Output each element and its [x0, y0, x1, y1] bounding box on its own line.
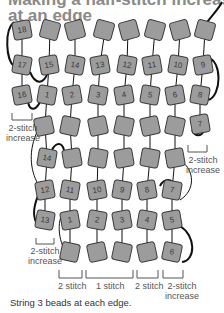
bead-row-g: 13 1 2 3 4 5: [35, 210, 183, 231]
bead: 13: [90, 55, 111, 76]
upper-left-increase-label: 2-stitch increase: [6, 123, 40, 143]
bead: 18: [12, 20, 33, 41]
bead: [144, 19, 166, 41]
bead: [169, 19, 191, 41]
bead: [111, 241, 132, 262]
bead: 2: [62, 85, 83, 106]
bead: 13: [35, 210, 56, 231]
bead: 17: [12, 55, 33, 76]
bead: 4: [114, 85, 135, 106]
bead: [62, 148, 83, 169]
bead: 15: [39, 55, 60, 76]
bead: 10: [87, 180, 108, 201]
bead: [39, 19, 61, 41]
bead: 9: [193, 55, 214, 76]
bead: [139, 115, 160, 136]
bead: 14: [65, 55, 86, 76]
bead: 7: [162, 180, 183, 201]
bead: 10: [168, 55, 189, 76]
bead-row-e: 14: [37, 148, 186, 169]
bead: [59, 115, 80, 136]
bead: 6: [165, 85, 186, 106]
bead: 12: [117, 55, 138, 76]
bead: 11: [60, 180, 81, 201]
bead: [140, 148, 161, 169]
bottom-1stitch-label: 1 stitch: [96, 281, 125, 291]
lower-left-increase-label: 2-stitch increase: [28, 246, 62, 266]
bead: 4: [137, 210, 158, 231]
bead: 7: [190, 114, 211, 135]
upper-right-increase-label: 2-stitch increase: [186, 155, 220, 175]
bead: [87, 115, 108, 136]
bead: 6: [161, 241, 182, 262]
bead: 5: [162, 210, 183, 231]
bead: [86, 241, 107, 262]
bottom-2stitch-left-label: 2 stitch: [58, 281, 87, 291]
bead: [114, 148, 135, 169]
bead-row-b: 17 15 14 13 12 11 10 9: [12, 55, 214, 76]
bead: [64, 19, 86, 41]
bead: [194, 19, 216, 41]
bottom-increase-label: 2-stitch increase: [165, 281, 199, 301]
bead: [88, 148, 109, 169]
bead: [113, 115, 134, 136]
bead: 1: [60, 210, 81, 231]
bead: 8: [137, 180, 158, 201]
diagram-caption: String 3 beads at each edge.: [10, 297, 131, 308]
bead: 12: [35, 180, 56, 201]
bead: 9: [112, 180, 133, 201]
bead-row-c: 16 1 2 3 4 5 6 8: [12, 85, 211, 106]
bead: [118, 19, 140, 41]
bead-row-h: 6: [59, 241, 182, 262]
bead: 16: [12, 85, 33, 106]
bead: 2: [87, 210, 108, 231]
bead: [59, 241, 80, 262]
bead-row-a: 18: [12, 19, 216, 41]
bead: 3: [112, 210, 133, 231]
bead: [164, 115, 185, 136]
bead: [93, 19, 115, 41]
bead: [165, 148, 186, 169]
bead: [136, 241, 157, 262]
bead: 3: [88, 85, 109, 106]
bead: 8: [190, 85, 211, 106]
bead-row-d: 7: [33, 114, 210, 137]
bead: 5: [140, 85, 161, 106]
bead: 14: [37, 148, 58, 169]
bottom-2stitch-right-label: 2 stitch: [135, 281, 164, 291]
bead: 1: [37, 85, 58, 106]
bead: 11: [142, 55, 163, 76]
bead-row-f: 12 11 10 9 8 7: [35, 180, 183, 201]
